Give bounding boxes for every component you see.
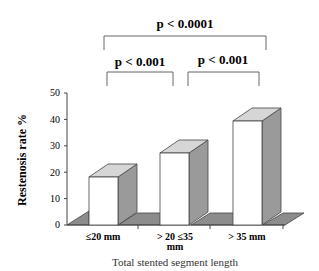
p-value-left: p < 0.001: [115, 54, 165, 69]
tick-0: 0: [55, 219, 60, 230]
y-axis-label: Restenosis rate %: [15, 114, 29, 206]
tick-30: 30: [50, 140, 60, 151]
cat-label-2: > 35 mm: [228, 231, 266, 242]
tick-40: 40: [50, 114, 60, 125]
bar-le20: [89, 164, 137, 225]
y-tick-labels: 50 40 30 20 10 0: [50, 87, 60, 230]
cat-label-0: ≤20 mm: [86, 231, 121, 242]
tick-50: 50: [50, 87, 60, 98]
bar-20to35: [160, 140, 208, 225]
p-values: p < 0.0001 p < 0.001 p < 0.001: [115, 16, 248, 69]
tick-10: 10: [50, 193, 60, 204]
x-ticks: [138, 225, 283, 229]
x-tick-labels: ≤20 mm > 20 ≤35 mm > 35 mm: [86, 231, 267, 252]
x-axis-label: Total stented segment length: [112, 256, 239, 268]
bar-chart: 50 40 30 20 10 0 Restenosis rate % ≤2: [0, 0, 319, 271]
p-value-right: p < 0.001: [198, 52, 248, 67]
cat-label-1b: mm: [167, 241, 184, 252]
p-value-all: p < 0.0001: [157, 16, 214, 31]
tick-20: 20: [50, 167, 60, 178]
bar-gt35: [233, 108, 281, 225]
